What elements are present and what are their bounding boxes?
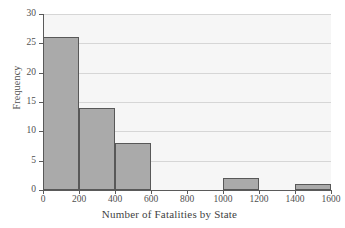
bar-1000-1200 bbox=[223, 178, 259, 190]
x-tick-label-1600: 1600 bbox=[311, 194, 345, 204]
y-tick-label-5: 5 bbox=[10, 156, 36, 166]
x-tick-label-600: 600 bbox=[131, 194, 171, 204]
plot-area bbox=[43, 14, 331, 190]
y-tick-label-20: 20 bbox=[10, 68, 36, 78]
x-tick-mark-0 bbox=[43, 190, 44, 194]
bar-1400-1600 bbox=[295, 184, 331, 190]
gridline-y-30 bbox=[43, 14, 331, 15]
x-tick-mark-400 bbox=[115, 190, 116, 194]
bar-0-200 bbox=[43, 37, 79, 190]
y-tick-mark-5 bbox=[39, 161, 43, 162]
bar-400-600 bbox=[115, 143, 151, 190]
x-tick-mark-200 bbox=[79, 190, 80, 194]
x-tick-label-1400: 1400 bbox=[275, 194, 315, 204]
x-tick-mark-1600 bbox=[331, 190, 332, 194]
y-tick-label-15: 15 bbox=[10, 97, 36, 107]
x-tick-label-400: 400 bbox=[95, 194, 135, 204]
gridline-y-25 bbox=[43, 43, 331, 44]
x-tick-mark-600 bbox=[151, 190, 152, 194]
y-tick-label-10: 10 bbox=[10, 126, 36, 136]
y-tick-mark-30 bbox=[39, 14, 43, 15]
x-tick-mark-1400 bbox=[295, 190, 296, 194]
x-tick-mark-1200 bbox=[259, 190, 260, 194]
x-tick-label-0: 0 bbox=[23, 194, 63, 204]
y-tick-mark-15 bbox=[39, 102, 43, 103]
x-tick-label-1200: 1200 bbox=[239, 194, 279, 204]
gridline-y-20 bbox=[43, 73, 331, 74]
x-tick-mark-1000 bbox=[223, 190, 224, 194]
y-tick-mark-10 bbox=[39, 131, 43, 132]
y-tick-label-25: 25 bbox=[10, 38, 36, 48]
y-tick-mark-20 bbox=[39, 73, 43, 74]
x-tick-label-1000: 1000 bbox=[203, 194, 243, 204]
gridline-y-15 bbox=[43, 102, 331, 103]
x-tick-mark-800 bbox=[187, 190, 188, 194]
y-tick-label-30: 30 bbox=[10, 9, 36, 19]
x-axis-title: Number of Fatalities by State bbox=[0, 208, 339, 220]
x-tick-label-200: 200 bbox=[59, 194, 99, 204]
y-axis-title: Frequency bbox=[11, 43, 22, 133]
x-tick-label-800: 800 bbox=[167, 194, 207, 204]
y-tick-mark-25 bbox=[39, 43, 43, 44]
bar-200-400 bbox=[79, 108, 115, 190]
